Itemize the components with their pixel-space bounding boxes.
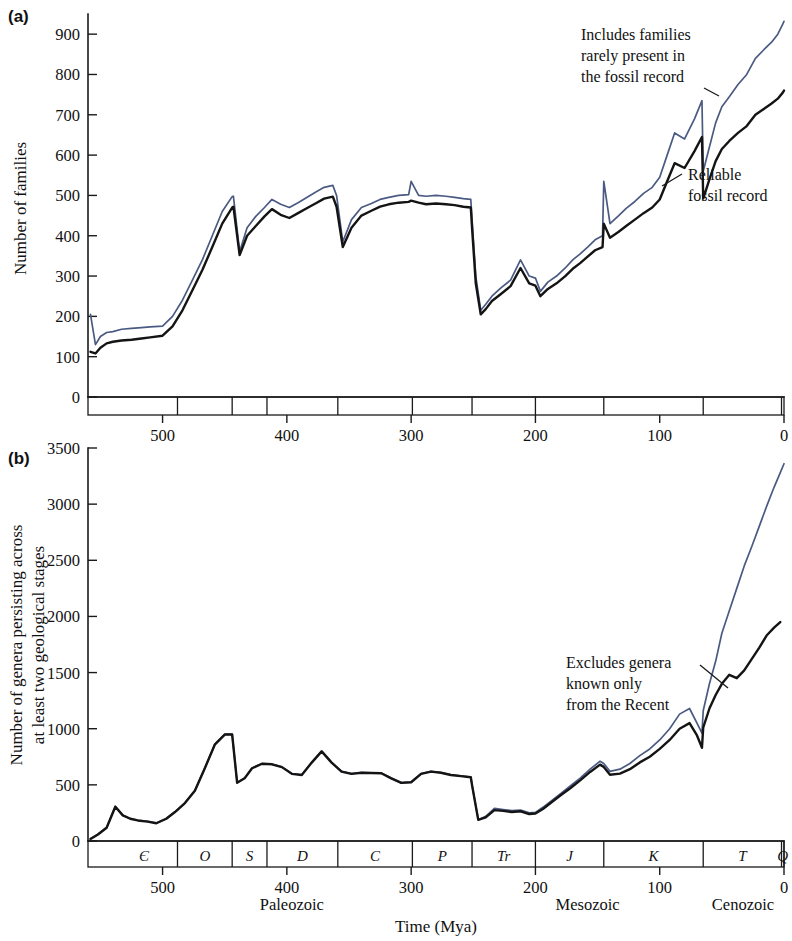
era-label-mesozoic: Mesozoic xyxy=(556,895,620,914)
x-axis-title: Time (Mya) xyxy=(395,917,477,936)
panel-a-y-axis-title: Number of families xyxy=(11,142,30,275)
period-label-J: J xyxy=(566,848,574,864)
panel-b-annotation-excludes: Excludes genera known only from the Rece… xyxy=(566,654,728,713)
panel-b-y-label: 3000 xyxy=(47,495,80,514)
panel-a-period-bar xyxy=(88,397,784,415)
panel-a-y-label: 900 xyxy=(55,25,80,44)
panel-a-y-label: 100 xyxy=(55,348,80,367)
panel-b-x-label: 200 xyxy=(523,878,548,897)
period-label-Q: Q xyxy=(777,848,788,864)
panel-a-y-label: 300 xyxy=(55,267,80,286)
panel-a-y-label: 200 xyxy=(55,307,80,326)
panel-a-y-label: 700 xyxy=(55,106,80,125)
figure-container: (a) 0100200300400500600700800900 5004003… xyxy=(0,0,792,941)
panel-a-y-label: 600 xyxy=(55,146,80,165)
panel-b-y-axis-title-line2: at least two geological stages xyxy=(29,546,48,744)
panel-b-y-label: 2500 xyxy=(47,551,80,570)
panel-b-y-label: 3500 xyxy=(47,439,80,458)
panel-a-x-label: 100 xyxy=(647,426,672,445)
panel-b-letter: (b) xyxy=(8,449,30,468)
panel-b-x-label: 300 xyxy=(399,878,424,897)
panel-b-x-tick-group: 5004003002001000 xyxy=(150,867,788,897)
period-label-D: D xyxy=(296,848,308,864)
annot-excludes-line1: Excludes genera xyxy=(566,654,671,672)
panel-b-y-label: 0 xyxy=(72,832,80,851)
panel-a-y-tick-group: 0100200300400500600700800900 xyxy=(55,25,97,407)
panel-a-x-label: 200 xyxy=(523,426,548,445)
panel-a-y-label: 800 xyxy=(55,65,80,84)
panel-a-curve-reliable-record xyxy=(90,91,784,354)
panel-a-x-tick-group: 5004003002001000 xyxy=(150,415,788,445)
panel-b-x-label: 100 xyxy=(647,878,672,897)
panel-b-y-label: 2000 xyxy=(47,607,80,626)
period-label-T: T xyxy=(738,848,748,864)
period-label-P: P xyxy=(437,848,447,864)
panel-a-x-label: 300 xyxy=(399,426,424,445)
panel-a-y-label: 0 xyxy=(72,388,80,407)
panel-b-period-bar: ЄOSDCPTrJKTQ xyxy=(88,841,788,867)
panel-a-y-label: 400 xyxy=(55,227,80,246)
period-label-K: K xyxy=(647,848,659,864)
panel-b-y-label: 1500 xyxy=(47,664,80,683)
panel-b-curve-excludes-recent xyxy=(90,622,780,839)
annot-reliable-line1: Reliable xyxy=(688,166,741,183)
era-label-paleozoic: Paleozoic xyxy=(260,895,324,914)
panel-b-y-tick-group: 0500100015002000250030003500 xyxy=(47,439,97,851)
period-label-C: C xyxy=(370,848,381,864)
panel-a-annotation-reliable: Reliable fossil record xyxy=(662,166,768,204)
period-label-O: O xyxy=(199,848,210,864)
annot-includes-leader xyxy=(704,88,719,96)
panel-b-curve-includes-recent xyxy=(90,464,784,839)
era-label-cenozoic: Cenozoic xyxy=(712,895,774,914)
panel-a-annotation-includes: Includes families rarely present in the … xyxy=(581,26,719,96)
panel-b-y-axis-title-line1: Number of genera persisting across xyxy=(7,525,26,766)
panel-b: (b) 0500100015002000250030003500 5004003… xyxy=(7,439,788,936)
figure-svg: (a) 0100200300400500600700800900 5004003… xyxy=(0,0,792,941)
period-label-Tr: Tr xyxy=(497,848,511,864)
panel-b-y-label: 1000 xyxy=(47,720,80,739)
annot-reliable-leader xyxy=(662,174,682,186)
panel-b-era-label-group: PaleozoicMesozoicCenozoic xyxy=(260,895,774,914)
panel-a-x-label: 0 xyxy=(780,426,788,445)
panel-a-y-label: 500 xyxy=(55,186,80,205)
panel-a-x-label: 400 xyxy=(274,426,299,445)
annot-includes-line1: Includes families xyxy=(581,26,691,43)
annot-reliable-line2: fossil record xyxy=(688,187,768,204)
annot-includes-line2: rarely present in xyxy=(581,47,685,65)
period-label-Є: Є xyxy=(139,848,150,864)
annot-excludes-line3: from the Recent xyxy=(566,696,670,713)
panel-a-letter: (a) xyxy=(8,7,29,26)
annot-includes-line3: the fossil record xyxy=(581,68,684,85)
panel-b-x-label: 0 xyxy=(780,878,788,897)
annot-excludes-line2: known only xyxy=(566,675,642,693)
period-label-S: S xyxy=(246,848,254,864)
panel-b-y-label: 500 xyxy=(55,776,80,795)
panel-b-x-label: 500 xyxy=(150,878,175,897)
panel-a-x-label: 500 xyxy=(150,426,175,445)
panel-a: (a) 0100200300400500600700800900 5004003… xyxy=(8,7,788,445)
